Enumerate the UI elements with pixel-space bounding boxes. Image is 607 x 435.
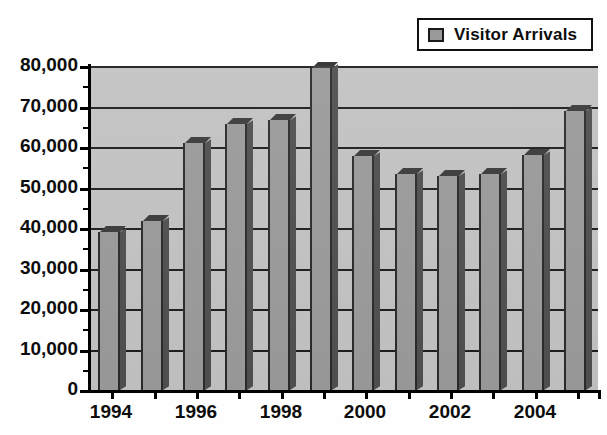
y-axis-minor-tick [83, 370, 89, 372]
y-axis-tick [80, 309, 89, 312]
bar-side-face [459, 172, 465, 390]
x-axis-line [88, 390, 600, 393]
y-axis-label: 60,000 [0, 135, 78, 157]
x-axis-label: 2004 [514, 401, 556, 423]
bar-side-face [501, 170, 507, 390]
x-axis-tick [492, 390, 495, 399]
y-axis-minor-tick [83, 289, 89, 291]
bar-right-edge [288, 120, 290, 390]
y-axis-minor-tick [83, 208, 89, 210]
x-axis-tick [281, 390, 284, 399]
x-axis-tick [577, 390, 580, 399]
bar-chart: Visitor Arrivals 010,00020,00030,00040,0… [0, 0, 607, 435]
x-axis-label: 1994 [90, 401, 132, 423]
bar-1998 [268, 120, 290, 390]
y-axis-minor-tick [83, 127, 89, 129]
bar-right-edge [203, 143, 205, 390]
y-axis-label: 10,000 [0, 338, 78, 360]
gridline [90, 66, 598, 68]
x-axis-tick [408, 390, 411, 399]
bar-side-face [586, 108, 592, 390]
bar-right-edge [415, 174, 417, 390]
chart-legend: Visitor Arrivals [417, 18, 593, 51]
y-axis-tick [80, 228, 89, 231]
bar-right-edge [161, 221, 163, 390]
bar-2000 [352, 156, 374, 390]
x-axis-tick [196, 390, 199, 399]
bar-side-face [290, 117, 296, 390]
bar-2004 [522, 155, 544, 390]
x-axis-label: 2002 [429, 401, 471, 423]
y-axis-minor-tick [83, 86, 89, 88]
bar-side-face [374, 152, 380, 390]
legend-label: Visitor Arrivals [454, 25, 577, 45]
x-axis-tick [365, 390, 368, 399]
legend-swatch-icon [428, 28, 444, 42]
bar-right-edge [584, 111, 586, 390]
bar-side-face [417, 170, 423, 390]
y-axis-tick [80, 350, 89, 353]
x-axis-tick [238, 390, 241, 399]
y-axis-label: 50,000 [0, 176, 78, 198]
bar-2003 [479, 174, 501, 390]
gridline [90, 107, 598, 109]
bar-side-face [247, 121, 253, 390]
y-axis-tick [80, 66, 89, 69]
bar-1994 [98, 232, 120, 390]
bar-right-edge [542, 155, 544, 390]
x-axis-tick [450, 390, 453, 399]
y-axis-label: 0 [0, 378, 78, 400]
y-axis-label: 20,000 [0, 297, 78, 319]
y-axis-tick [80, 269, 89, 272]
bar-side-face [120, 228, 126, 390]
bar-1996 [183, 143, 205, 390]
gridline [90, 147, 598, 149]
y-axis-minor-tick [83, 248, 89, 250]
bar-1995 [141, 221, 163, 390]
y-axis-label: 40,000 [0, 216, 78, 238]
bar-1997 [225, 124, 247, 390]
bar-right-edge [457, 176, 459, 390]
bar-2001 [395, 174, 417, 390]
x-axis-tick [111, 390, 114, 399]
y-axis-tick [80, 107, 89, 110]
x-axis-label: 2000 [344, 401, 386, 423]
y-axis-minor-tick [83, 329, 89, 331]
y-axis-tick [80, 390, 89, 393]
bar-2005 [564, 111, 586, 390]
bar-side-face [205, 140, 211, 390]
bar-right-edge [330, 68, 332, 390]
plot-area [90, 66, 598, 390]
bar-1999 [310, 68, 332, 390]
y-axis-tick [80, 147, 89, 150]
bar-right-edge [245, 124, 247, 390]
bar-right-edge [499, 174, 501, 390]
x-axis-label: 1996 [175, 401, 217, 423]
bar-side-face [163, 217, 169, 390]
bar-2002 [437, 176, 459, 390]
y-axis-tick [80, 188, 89, 191]
bar-right-edge [372, 156, 374, 390]
y-axis-label: 80,000 [0, 54, 78, 76]
x-axis-tick [154, 390, 157, 399]
bar-side-face [544, 151, 550, 390]
x-axis-tick [535, 390, 538, 399]
y-axis-label: 70,000 [0, 95, 78, 117]
bar-right-edge [118, 232, 120, 390]
y-axis-label: 30,000 [0, 257, 78, 279]
bar-side-face [332, 64, 338, 390]
x-axis-end-tick [598, 390, 601, 399]
x-axis-label: 1998 [260, 401, 302, 423]
x-axis-tick [323, 390, 326, 399]
y-axis-minor-tick [83, 167, 89, 169]
